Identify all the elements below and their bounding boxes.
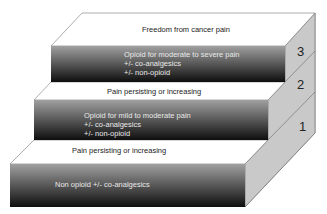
transition-2-3: Pain persisting or increasing xyxy=(107,87,201,96)
step3-line3: +/- non-opioid xyxy=(124,68,170,77)
step2-line3: +/- non-opioid xyxy=(84,129,130,138)
step-number-1: 1 xyxy=(299,119,306,134)
step2-line1: Opioid for mild to moderate pain xyxy=(84,111,191,120)
step-number-2: 2 xyxy=(297,77,304,92)
step2-line2: +/- co-analgesics xyxy=(84,120,141,129)
goal-label: Freedom from cancer pain xyxy=(142,25,230,34)
step3-line2: +/- co-analgesics xyxy=(124,59,181,68)
step1-line1: Non opioid +/- co-analgesics xyxy=(55,180,150,189)
transition-1-2: Pain persisting or increasing xyxy=(72,146,166,155)
step-number-3: 3 xyxy=(297,44,304,59)
front-face-2 xyxy=(34,100,268,140)
step3-line1: Opioid for moderate to severe pain xyxy=(124,50,239,59)
